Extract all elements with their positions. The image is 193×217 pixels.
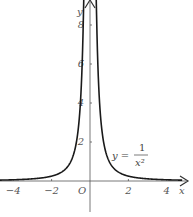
- function-label-numerator: 1: [139, 142, 145, 153]
- x-axis-label: x: [179, 185, 185, 196]
- curve-series: [0, 0, 84, 180]
- x-tick-label: 4: [163, 185, 170, 196]
- function-label-denominator: x²: [135, 157, 145, 168]
- function-label-lhs: y =: [111, 150, 129, 161]
- function-label: y = 1 x²: [111, 142, 148, 168]
- x-tick-label: −2: [44, 185, 59, 196]
- x-tick-label: 2: [124, 185, 131, 196]
- chart-canvas: x y O −4−224 2468 y = 1 x²: [0, 0, 193, 217]
- x-tick-label: −4: [6, 185, 21, 196]
- x-ticks: −4−224: [6, 179, 170, 196]
- y-tick-label: 6: [78, 58, 85, 69]
- origin-label: O: [78, 185, 86, 196]
- curve-series-right: [96, 0, 182, 180]
- y-axis-label: y: [76, 6, 83, 17]
